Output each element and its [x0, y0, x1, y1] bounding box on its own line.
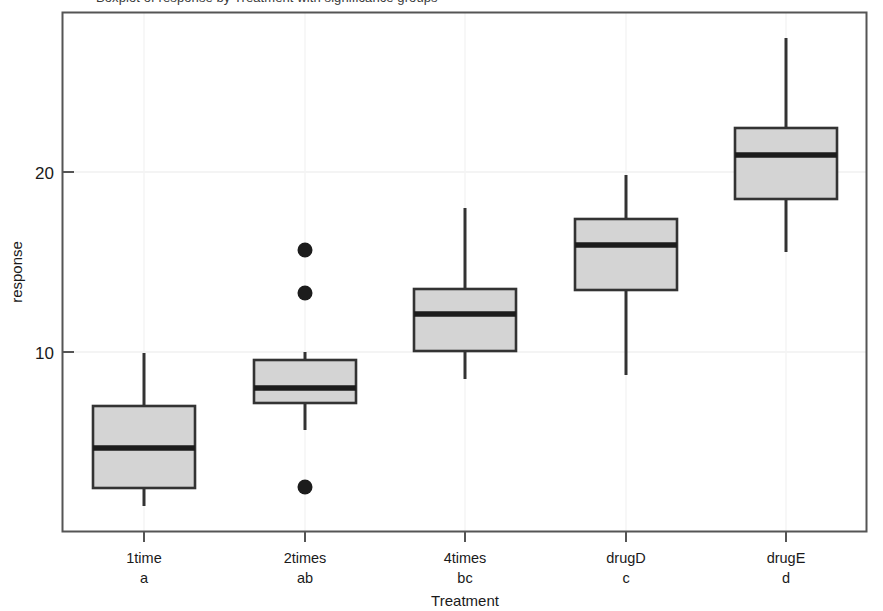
outlier-2times-2[interactable]	[298, 286, 313, 301]
box-drugE[interactable]	[735, 128, 837, 199]
x-label-2times: 2times	[284, 550, 327, 566]
x-group-drugE: d	[782, 570, 790, 586]
x-group-2times: ab	[297, 570, 313, 586]
x-label-drugD: drugD	[606, 550, 646, 566]
x-group-1time: a	[140, 570, 149, 586]
x-group-drugD: c	[622, 570, 629, 586]
x-axis-ticks	[144, 531, 786, 542]
x-label-1time: 1time	[126, 550, 161, 566]
y-tick-label-20: 20	[35, 164, 54, 183]
x-group-4times: bc	[457, 570, 472, 586]
y-axis-title: response	[8, 241, 25, 303]
outlier-2times-1[interactable]	[298, 243, 313, 258]
plot-canvas: 20 10 response	[0, 0, 883, 611]
boxplot-group-drugE[interactable]	[735, 38, 837, 252]
y-tick-label-10: 10	[35, 344, 54, 363]
x-label-4times: 4times	[444, 550, 487, 566]
boxplot-group-1time[interactable]	[93, 353, 195, 506]
x-axis-title: Treatment	[431, 592, 500, 609]
box-2times[interactable]	[254, 360, 356, 403]
outlier-2times-3[interactable]	[298, 480, 313, 495]
y-axis-ticks	[62, 172, 74, 352]
box-drugD[interactable]	[575, 219, 677, 290]
boxplot-group-4times[interactable]	[414, 208, 516, 379]
box-4times[interactable]	[414, 289, 516, 351]
x-label-drugE: drugE	[767, 550, 806, 566]
boxplot-group-drugD[interactable]	[575, 175, 677, 375]
boxplot-chart: Boxplot of response by Treatment with si…	[0, 0, 883, 611]
